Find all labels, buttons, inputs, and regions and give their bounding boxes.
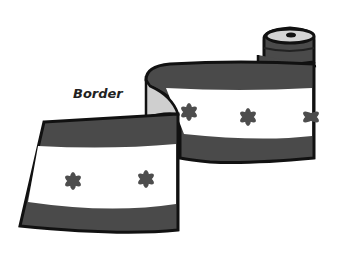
ribbon-drawing xyxy=(0,0,338,257)
border-label: Border xyxy=(73,86,123,101)
ribbon-front-panel xyxy=(20,114,178,232)
border-illustration: Border xyxy=(0,0,338,257)
